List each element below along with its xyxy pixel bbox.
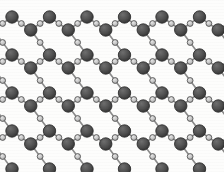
heavy-atom bbox=[175, 138, 187, 150]
bridging-atom bbox=[37, 40, 43, 46]
bridging-atom bbox=[0, 135, 6, 141]
heavy-atom bbox=[118, 125, 130, 137]
bridging-atom bbox=[187, 97, 193, 103]
bridging-atom bbox=[75, 116, 81, 122]
heavy-atom bbox=[43, 125, 55, 137]
bridging-atom bbox=[37, 78, 43, 84]
bridging-atom bbox=[18, 21, 24, 27]
heavy-atom bbox=[156, 125, 168, 137]
bridging-atom bbox=[0, 116, 6, 122]
bridging-atom bbox=[112, 154, 118, 160]
heavy-atom bbox=[100, 100, 112, 112]
heavy-atom bbox=[118, 163, 130, 172]
bridging-atom bbox=[75, 40, 81, 46]
heavy-atom bbox=[175, 24, 187, 36]
heavy-atom bbox=[137, 62, 149, 74]
bridging-atom bbox=[75, 59, 81, 65]
heavy-atom bbox=[156, 49, 168, 61]
bridging-atom bbox=[18, 97, 24, 103]
heavy-atom bbox=[100, 62, 112, 74]
bridging-atom bbox=[168, 59, 174, 65]
heavy-atom bbox=[43, 87, 55, 99]
lattice-figure bbox=[0, 0, 224, 172]
bridging-atom bbox=[112, 59, 118, 65]
heavy-atom bbox=[62, 62, 74, 74]
bridging-atom bbox=[206, 21, 212, 27]
heavy-atom bbox=[193, 87, 205, 99]
heavy-atom bbox=[81, 87, 93, 99]
bridging-atom bbox=[93, 135, 99, 141]
heavy-atom bbox=[25, 100, 37, 112]
heavy-atom bbox=[43, 11, 55, 23]
heavy-atom bbox=[43, 163, 55, 172]
bridging-atom bbox=[187, 135, 193, 141]
bridging-atom bbox=[112, 40, 118, 46]
bridging-atom bbox=[150, 97, 156, 103]
heavy-atom bbox=[6, 49, 18, 61]
bridging-atom bbox=[37, 59, 43, 65]
bridging-atom bbox=[187, 116, 193, 122]
bridging-atom bbox=[131, 59, 137, 65]
heavy-atom bbox=[118, 49, 130, 61]
bridging-atom bbox=[168, 97, 174, 103]
heavy-atom bbox=[81, 49, 93, 61]
heavy-atom bbox=[193, 49, 205, 61]
bond bbox=[218, 169, 224, 172]
bridging-atom bbox=[150, 21, 156, 27]
heavy-atom-layer bbox=[0, 11, 224, 172]
heavy-atom bbox=[156, 11, 168, 23]
heavy-atom bbox=[175, 62, 187, 74]
bridging-atom bbox=[56, 135, 62, 141]
heavy-atom bbox=[100, 24, 112, 36]
heavy-atom bbox=[175, 100, 187, 112]
heavy-atom bbox=[62, 138, 74, 150]
heavy-atom bbox=[193, 11, 205, 23]
bridging-atom bbox=[75, 97, 81, 103]
heavy-atom bbox=[212, 138, 224, 150]
bridging-atom bbox=[0, 59, 6, 65]
bridging-atom bbox=[150, 154, 156, 160]
bridging-atom bbox=[112, 78, 118, 84]
bridging-atom bbox=[131, 21, 137, 27]
bridging-atom bbox=[150, 40, 156, 46]
bridging-atom bbox=[112, 21, 118, 27]
heavy-atom bbox=[25, 24, 37, 36]
bridging-atom bbox=[18, 59, 24, 65]
heavy-atom bbox=[25, 62, 37, 74]
bridging-atom bbox=[37, 97, 43, 103]
heavy-atom bbox=[137, 24, 149, 36]
bridging-atom bbox=[75, 154, 81, 160]
heavy-atom bbox=[81, 125, 93, 137]
bridging-atom bbox=[112, 116, 118, 122]
heavy-atom bbox=[118, 87, 130, 99]
heavy-atom bbox=[137, 138, 149, 150]
heavy-atom bbox=[212, 62, 224, 74]
bridging-atom bbox=[93, 97, 99, 103]
heavy-atom bbox=[212, 100, 224, 112]
bridging-atom bbox=[187, 21, 193, 27]
heavy-atom bbox=[62, 24, 74, 36]
bridging-atom bbox=[131, 97, 137, 103]
bridging-atom bbox=[56, 97, 62, 103]
bridging-atom bbox=[37, 116, 43, 122]
heavy-atom bbox=[6, 163, 18, 172]
heavy-atom bbox=[156, 163, 168, 172]
heavy-atom bbox=[6, 125, 18, 137]
heavy-atom bbox=[6, 87, 18, 99]
heavy-atom bbox=[81, 163, 93, 172]
heavy-atom bbox=[6, 11, 18, 23]
heavy-atom bbox=[118, 11, 130, 23]
bridging-atom bbox=[0, 97, 6, 103]
bridging-atom bbox=[168, 135, 174, 141]
bridging-atom bbox=[56, 59, 62, 65]
heavy-atom bbox=[43, 49, 55, 61]
bridging-atom bbox=[75, 78, 81, 84]
bridging-atom bbox=[37, 21, 43, 27]
heavy-atom bbox=[193, 125, 205, 137]
bridging-atom bbox=[206, 59, 212, 65]
bridging-atom bbox=[18, 135, 24, 141]
bridging-atom bbox=[187, 78, 193, 84]
bridging-atom bbox=[0, 78, 6, 84]
heavy-atom bbox=[212, 24, 224, 36]
bridging-atom bbox=[37, 135, 43, 141]
